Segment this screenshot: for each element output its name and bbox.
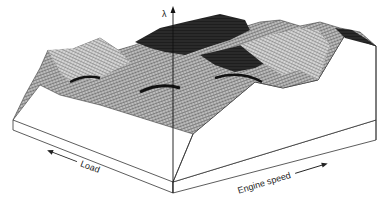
lambda-surface-chart: λ Load Engine speed [0, 0, 388, 205]
engine-speed-arrow-line [295, 165, 324, 174]
load-arrow-icon [46, 148, 53, 155]
lambda-arrow-icon [171, 6, 176, 13]
lambda-label: λ [162, 9, 167, 19]
box-left-face [13, 120, 173, 193]
engine-speed-arrow-icon [321, 161, 328, 168]
